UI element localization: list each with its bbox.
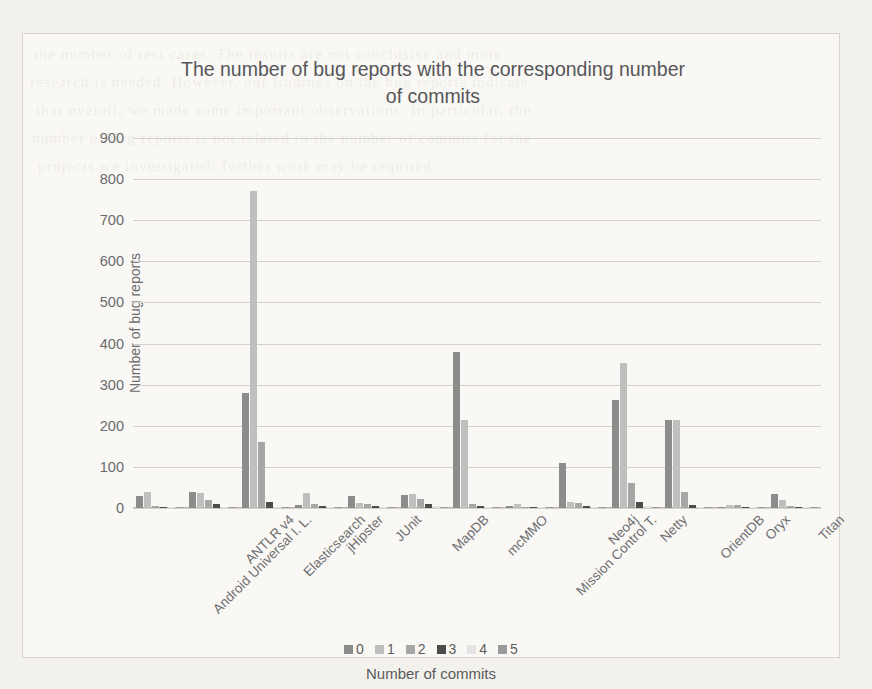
bar-group[interactable] bbox=[133, 138, 186, 508]
legend-item[interactable]: 4 bbox=[467, 641, 487, 657]
y-axis-tick-label: 900 bbox=[100, 130, 124, 146]
y-axis-tick-label: 100 bbox=[100, 459, 124, 475]
legend-swatch bbox=[437, 645, 446, 654]
bar-group[interactable] bbox=[292, 138, 345, 508]
x-axis-tick-label: Titan bbox=[815, 512, 846, 543]
x-axis-tick-label: MapDB bbox=[449, 512, 491, 554]
bar[interactable] bbox=[401, 495, 408, 508]
x-axis-tick-label: Oryx bbox=[762, 512, 793, 543]
bar[interactable] bbox=[189, 492, 196, 508]
bar[interactable] bbox=[242, 393, 249, 508]
bar[interactable] bbox=[205, 500, 212, 508]
bar[interactable] bbox=[559, 463, 566, 508]
plot-area: 0100200300400500600700800900 bbox=[133, 138, 821, 508]
x-axis-tick-label: Android Universal I. L. bbox=[210, 512, 315, 617]
legend-label: 5 bbox=[510, 641, 518, 657]
legend-swatch bbox=[344, 645, 353, 654]
bar[interactable] bbox=[417, 499, 424, 508]
legend-label: 4 bbox=[479, 641, 487, 657]
bar[interactable] bbox=[681, 492, 688, 508]
x-axis-tick-label: mcMMO bbox=[504, 512, 551, 559]
bar[interactable] bbox=[453, 352, 460, 508]
y-axis-tick-label: 700 bbox=[100, 212, 124, 228]
legend-label: 0 bbox=[356, 641, 364, 657]
legend-swatch bbox=[498, 645, 507, 654]
legend-item[interactable]: 2 bbox=[406, 641, 426, 657]
y-axis-tick-label: 0 bbox=[116, 500, 124, 516]
legend-swatch bbox=[375, 645, 384, 654]
bar-group[interactable] bbox=[398, 138, 451, 508]
legend-label: 3 bbox=[449, 641, 457, 657]
x-axis-tick-labels: Android Universal I. L.ANTLR v4Elasticse… bbox=[133, 508, 821, 628]
bar-group[interactable] bbox=[715, 138, 768, 508]
bar-group[interactable] bbox=[239, 138, 292, 508]
bar-group[interactable] bbox=[768, 138, 821, 508]
y-axis-tick-label: 200 bbox=[100, 418, 124, 434]
bar[interactable] bbox=[461, 420, 468, 508]
legend-item[interactable]: 1 bbox=[375, 641, 395, 657]
y-axis-tick-label: 500 bbox=[100, 294, 124, 310]
bar-group[interactable] bbox=[451, 138, 504, 508]
bar-group[interactable] bbox=[662, 138, 715, 508]
bar-group[interactable] bbox=[503, 138, 556, 508]
bar[interactable] bbox=[665, 420, 672, 508]
x-axis-tick-label: JUnit bbox=[392, 512, 424, 544]
legend-swatch bbox=[406, 645, 415, 654]
bar-group[interactable] bbox=[345, 138, 398, 508]
bar[interactable] bbox=[144, 492, 151, 508]
bar[interactable] bbox=[197, 493, 204, 508]
legend-label: 1 bbox=[387, 641, 395, 657]
legend-label: 2 bbox=[418, 641, 426, 657]
y-axis-tick-label: 800 bbox=[100, 171, 124, 187]
chart-title-line-2: of commits bbox=[103, 83, 763, 110]
legend-item[interactable]: 3 bbox=[437, 641, 457, 657]
bar[interactable] bbox=[303, 493, 310, 508]
bar[interactable] bbox=[258, 442, 265, 508]
y-axis-tick-label: 300 bbox=[100, 377, 124, 393]
legend-item[interactable]: 5 bbox=[498, 641, 518, 657]
bar-group[interactable] bbox=[556, 138, 609, 508]
y-axis-tick-label: 400 bbox=[100, 336, 124, 352]
chart-title-line-1: The number of bug reports with the corre… bbox=[103, 56, 763, 83]
chart-container: The number of bug reports with the corre… bbox=[22, 33, 840, 658]
legend-swatch bbox=[467, 645, 476, 654]
bar[interactable] bbox=[250, 191, 257, 508]
x-axis-title: Number of commits bbox=[23, 665, 839, 682]
bar[interactable] bbox=[779, 500, 786, 508]
x-axis-tick-label: Netty bbox=[657, 512, 690, 545]
chart-title: The number of bug reports with the corre… bbox=[103, 56, 763, 110]
chart-legend: 012345 bbox=[23, 641, 839, 657]
bar[interactable] bbox=[136, 496, 143, 508]
bar[interactable] bbox=[628, 483, 635, 508]
bar-group[interactable] bbox=[186, 138, 239, 508]
bar[interactable] bbox=[673, 420, 680, 508]
bar[interactable] bbox=[409, 494, 416, 508]
bar[interactable] bbox=[620, 363, 627, 508]
legend-item[interactable]: 0 bbox=[344, 641, 364, 657]
bar-group[interactable] bbox=[609, 138, 662, 508]
bar[interactable] bbox=[348, 496, 355, 508]
y-axis-tick-label: 600 bbox=[100, 253, 124, 269]
bar[interactable] bbox=[612, 400, 619, 508]
x-axis-tick-label: OrientDB bbox=[717, 512, 767, 562]
bar[interactable] bbox=[771, 494, 778, 508]
